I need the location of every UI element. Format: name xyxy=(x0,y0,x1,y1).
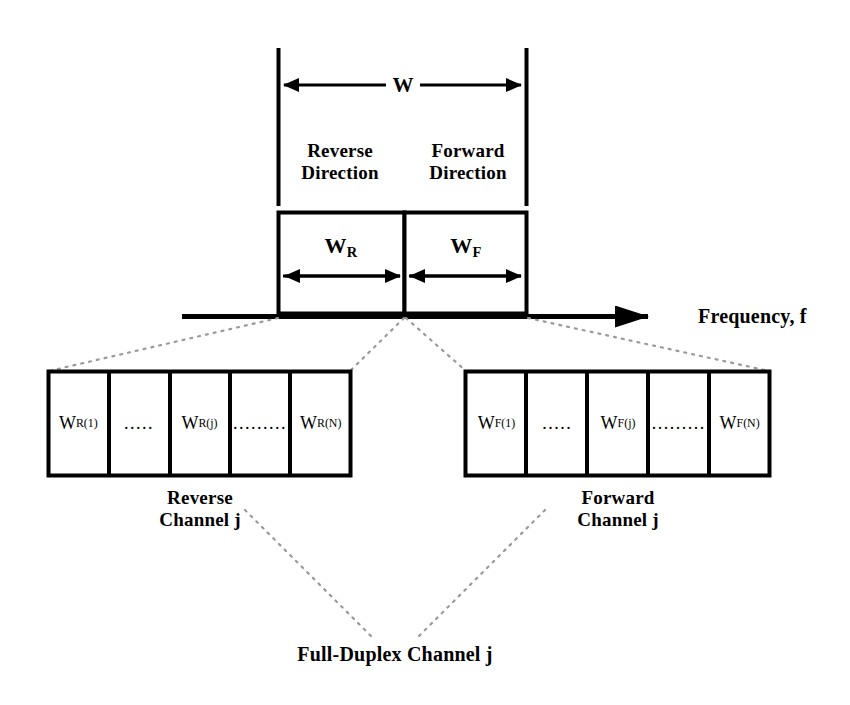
cell-superscript: (j) xyxy=(624,416,635,431)
cell-base: W xyxy=(300,413,317,434)
cell-base: W xyxy=(601,413,618,434)
reverse-cell-4: ......... xyxy=(230,371,291,476)
cell-subscript: R xyxy=(76,416,84,431)
reverse-cell-3: WR(j) xyxy=(169,371,230,476)
forward-direction-line1: Forward xyxy=(431,140,504,161)
reverse-cell-2: ..... xyxy=(109,371,170,476)
forward-bandwidth-subscript: F xyxy=(473,244,482,260)
total-bandwidth-label: W xyxy=(392,73,413,98)
cell-superscript: (N) xyxy=(325,416,342,431)
forward-bandwidth-label: WF xyxy=(450,233,481,261)
forward-direction-label: Forward Direction xyxy=(429,140,506,185)
connector-reverse-right xyxy=(350,318,404,371)
reverse-direction-line1: Reverse xyxy=(307,140,373,161)
forward-cell-5: WF(N) xyxy=(709,371,770,476)
cell-subscript: F xyxy=(737,416,744,431)
connector-reverse-left xyxy=(49,318,278,371)
connector-forward-left xyxy=(406,318,466,371)
cell-superscript: (j) xyxy=(206,416,217,431)
cell-subscript: F xyxy=(495,416,502,431)
cell-subscript: R xyxy=(317,416,325,431)
full-duplex-caption: Full-Duplex Channel j xyxy=(297,643,492,667)
forward-channel-cells: WF(1) ..... WF(j) ......... WF(N) xyxy=(466,371,770,476)
forward-channel-caption-line2: Channel j xyxy=(577,509,659,530)
cell-superscript: (1) xyxy=(501,416,515,431)
diagram-canvas xyxy=(0,0,850,705)
forward-cell-2: ..... xyxy=(527,371,588,476)
connector-fullduplex-left xyxy=(245,510,372,637)
forward-channel-caption: Forward Channel j xyxy=(577,487,659,532)
forward-direction-line2: Direction xyxy=(429,162,506,183)
forward-channel-caption-line1: Forward xyxy=(581,487,654,508)
reverse-cell-1: WR(1) xyxy=(48,371,109,476)
cell-subscript: F xyxy=(618,416,625,431)
frequency-axis-label: Frequency, f xyxy=(698,305,807,329)
forward-bandwidth-base: W xyxy=(450,233,472,258)
cell-base: W xyxy=(181,413,198,434)
reverse-channel-caption: Reverse Channel j xyxy=(159,487,241,532)
cell-superscript: (N) xyxy=(743,416,760,431)
reverse-bandwidth-base: W xyxy=(325,233,347,258)
connector-fullduplex-right xyxy=(418,510,545,637)
reverse-direction-label: Reverse Direction xyxy=(301,140,378,185)
diagram-root: W Reverse Direction Forward Direction WR… xyxy=(0,0,850,705)
forward-cell-4: ......... xyxy=(648,371,709,476)
forward-cell-1: WF(1) xyxy=(466,371,527,476)
reverse-direction-line2: Direction xyxy=(301,162,378,183)
forward-band-rect xyxy=(405,213,527,314)
cell-base: W xyxy=(478,413,495,434)
reverse-bandwidth-subscript: R xyxy=(347,244,358,260)
cell-superscript: (1) xyxy=(84,416,98,431)
cell-base: W xyxy=(59,413,76,434)
cell-subscript: R xyxy=(198,416,206,431)
forward-cell-3: WF(j) xyxy=(588,371,649,476)
reverse-channel-caption-line2: Channel j xyxy=(159,509,241,530)
reverse-bandwidth-label: WR xyxy=(325,233,358,261)
reverse-channel-cells: WR(1) ..... WR(j) ......... WR(N) xyxy=(48,371,351,476)
reverse-channel-caption-line1: Reverse xyxy=(167,487,233,508)
reverse-cell-5: WR(N) xyxy=(290,371,351,476)
cell-base: W xyxy=(720,413,737,434)
reverse-band-rect xyxy=(279,213,405,314)
